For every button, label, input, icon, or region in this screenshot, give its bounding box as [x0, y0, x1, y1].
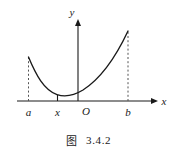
y-axis-label: y [69, 6, 75, 18]
caption-label: 图 [66, 132, 77, 148]
tick-label-b: b [125, 106, 131, 118]
figure-container: y x a x O b 图 3.4.2 [0, 0, 177, 152]
caption-number: 3.4.2 [86, 134, 111, 146]
tick-label-x: x [54, 106, 60, 118]
figure-caption: 图 3.4.2 [0, 130, 177, 150]
y-axis-arrowhead [75, 19, 81, 26]
x-axis-label: x [161, 95, 167, 107]
tick-label-origin: O [82, 105, 90, 117]
tick-label-a: a [26, 106, 32, 118]
x-axis-arrowhead [151, 98, 158, 104]
